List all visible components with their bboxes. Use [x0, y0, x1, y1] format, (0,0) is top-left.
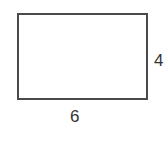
- height-label: 4: [154, 52, 163, 69]
- width-label: 6: [70, 108, 79, 125]
- rectangle-shape: [17, 13, 148, 100]
